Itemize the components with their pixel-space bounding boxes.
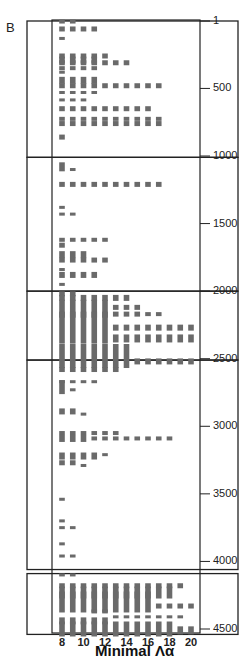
data-mark: [59, 83, 65, 88]
data-mark: [81, 413, 87, 416]
data-mark: [145, 325, 151, 331]
data-mark: [145, 83, 151, 88]
data-mark: [102, 121, 108, 126]
data-mark: [177, 583, 183, 588]
data-mark: [59, 238, 65, 242]
data-mark: [70, 182, 76, 187]
data-mark: [124, 325, 130, 331]
data-mark: [113, 622, 119, 637]
data-mark: [124, 615, 130, 618]
data-mark: [81, 367, 87, 372]
data-mark: [70, 526, 76, 529]
data-mark: [167, 325, 173, 331]
data-mark: [156, 312, 162, 316]
data-mark: [177, 334, 183, 342]
data-mark: [102, 83, 108, 88]
data-mark: [156, 334, 162, 342]
data-mark: [167, 615, 173, 618]
data-mark: [91, 622, 97, 637]
region-box: [27, 574, 238, 635]
data-mark: [81, 435, 87, 442]
data-mark: [167, 358, 173, 364]
data-mark: [113, 591, 119, 612]
data-mark: [113, 615, 119, 618]
data-mark: [188, 325, 194, 331]
data-mark: [81, 182, 87, 187]
y-tick-label: 3500: [213, 488, 237, 499]
data-mark: [59, 117, 65, 121]
data-mark: [70, 213, 76, 216]
data-mark: [59, 408, 65, 414]
data-mark: [70, 26, 76, 31]
data-mark: [59, 622, 65, 637]
data-mark: [91, 344, 97, 368]
data-mark: [145, 106, 151, 111]
data-mark: [145, 436, 151, 440]
data-mark: [113, 182, 119, 187]
data-mark: [102, 238, 108, 242]
data-mark: [113, 344, 119, 368]
data-mark: [81, 591, 87, 612]
x-tick-label: 10: [77, 636, 89, 648]
data-mark: [81, 91, 87, 94]
data-mark: [59, 121, 65, 126]
data-mark: [59, 106, 65, 111]
data-mark: [102, 609, 108, 613]
data-mark: [91, 26, 97, 31]
data-mark: [59, 460, 65, 465]
data-mark: [124, 83, 130, 88]
y-tick-label: 1000: [213, 150, 237, 161]
x-tick-label: 20: [185, 636, 197, 648]
x-tick-label: 8: [59, 636, 65, 648]
data-mark: [59, 182, 65, 187]
data-mark: [124, 60, 130, 65]
data-mark: [81, 121, 87, 126]
data-mark: [81, 380, 87, 383]
data-mark: [81, 77, 87, 84]
data-mark: [113, 334, 119, 342]
data-mark: [81, 464, 87, 467]
data-mark: [145, 312, 151, 316]
data-mark: [70, 238, 76, 242]
data-mark: [70, 251, 76, 258]
data-mark: [59, 91, 65, 94]
data-mark: [81, 117, 87, 121]
data-mark: [113, 436, 119, 440]
data-mark: [188, 626, 194, 634]
data-mark: [177, 358, 183, 364]
data-mark: [177, 626, 183, 634]
data-mark: [81, 83, 87, 88]
data-mark: [70, 344, 76, 368]
data-mark: [91, 238, 97, 242]
data-mark: [145, 622, 151, 637]
data-mark: [59, 519, 65, 522]
data-mark: [113, 367, 119, 372]
data-mark: [145, 334, 151, 342]
chart-plot: [0, 0, 248, 668]
data-mark: [70, 460, 76, 465]
data-mark: [156, 358, 162, 364]
y-tick-label: 3000: [213, 420, 237, 431]
data-mark: [70, 453, 76, 460]
data-mark: [124, 106, 130, 111]
data-mark: [59, 37, 65, 40]
data-mark: [156, 117, 162, 121]
region-box: [27, 21, 238, 157]
data-mark: [102, 258, 108, 263]
data-mark: [70, 258, 76, 263]
data-mark: [124, 591, 130, 612]
data-mark: [102, 591, 108, 612]
y-tick-label: 4500: [213, 623, 237, 634]
data-mark: [113, 117, 119, 121]
data-mark: [167, 604, 173, 609]
data-mark: [134, 83, 140, 88]
data-mark: [59, 453, 65, 460]
data-mark: [124, 182, 130, 187]
data-mark: [59, 367, 65, 372]
data-mark: [81, 344, 87, 368]
data-mark: [91, 431, 97, 435]
data-mark: [177, 325, 183, 331]
data-mark: [70, 168, 76, 171]
data-mark: [91, 83, 97, 88]
data-mark: [113, 431, 119, 435]
